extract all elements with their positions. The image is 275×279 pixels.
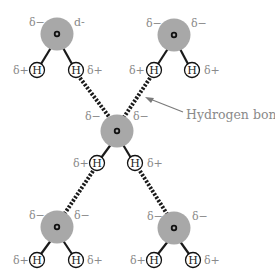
arrow-head-icon xyxy=(145,97,154,103)
water-molecule-bottom-left: H H δ− δ− δ+ δ+ xyxy=(13,209,103,268)
partial-positive-label: δ+ xyxy=(73,157,89,170)
svg-text:H: H xyxy=(187,64,197,77)
partial-positive-label: δ+ xyxy=(147,157,163,170)
partial-negative-label: δ− xyxy=(85,110,101,123)
partial-positive-label: δ+ xyxy=(13,64,29,77)
hbond-center-bottomright xyxy=(140,171,167,214)
partial-positive-label: δ+ xyxy=(204,254,220,267)
hydrogen-bond-label: Hydrogen bond xyxy=(186,107,275,122)
annotation-arrow xyxy=(145,97,183,112)
oxygen-atom xyxy=(41,211,74,244)
svg-text:H: H xyxy=(71,254,81,267)
partial-negative-label: δ− xyxy=(133,110,149,123)
partial-positive-label: δ+ xyxy=(87,254,103,267)
water-hydrogen-bond-diagram: Hydrogen bond H H δ− d- δ+ δ+ H H δ− δ− … xyxy=(0,0,275,279)
oxygen-atom xyxy=(158,19,191,52)
partial-negative-label: δ− xyxy=(147,210,163,223)
partial-negative-label: d- xyxy=(74,16,85,29)
partial-negative-label: δ− xyxy=(29,16,45,29)
svg-text:H: H xyxy=(149,254,159,267)
partial-negative-label: δ− xyxy=(146,17,162,30)
svg-text:H: H xyxy=(130,157,140,170)
partial-positive-label: δ+ xyxy=(129,64,145,77)
oxygen-atom xyxy=(41,18,74,51)
hbond-center-bottomleft xyxy=(65,171,93,213)
svg-text:H: H xyxy=(188,254,198,267)
partial-positive-label: δ+ xyxy=(130,254,146,267)
water-molecule-center: H H δ− δ− δ+ δ+ xyxy=(73,110,163,171)
partial-positive-label: δ+ xyxy=(87,64,103,77)
water-molecule-top-left: H H δ− d- δ+ δ+ xyxy=(13,16,103,78)
partial-negative-label: δ− xyxy=(74,209,90,222)
partial-positive-label: δ+ xyxy=(13,254,29,267)
svg-text:H: H xyxy=(149,64,159,77)
water-molecule-bottom-right: H H δ− δ− δ+ δ+ xyxy=(130,210,220,268)
oxygen-atom xyxy=(101,115,134,148)
partial-negative-label: δ− xyxy=(192,210,208,223)
partial-positive-label: δ+ xyxy=(204,64,220,77)
svg-text:H: H xyxy=(32,254,42,267)
svg-text:H: H xyxy=(32,64,42,77)
water-molecule-top-right: H H δ− δ− δ+ δ+ xyxy=(129,17,220,78)
svg-text:H: H xyxy=(92,157,102,170)
partial-negative-label: δ− xyxy=(191,17,207,30)
svg-text:H: H xyxy=(71,64,81,77)
partial-negative-label: δ− xyxy=(29,209,45,222)
